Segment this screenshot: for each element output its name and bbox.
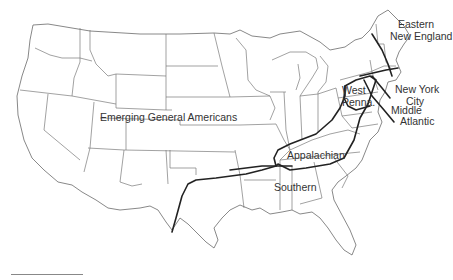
- label-southern: Southern: [274, 181, 317, 193]
- us-outline: [17, 10, 410, 255]
- label-west-penna-2: Penna.: [342, 96, 375, 108]
- scale-bar: [11, 274, 83, 275]
- label-eastern-new-england-1: Eastern: [398, 18, 434, 30]
- label-emerging-general-americans: Emerging General Americans: [100, 111, 237, 123]
- label-new-york-city-1: New York: [395, 83, 440, 95]
- us-dialect-map: Emerging General Americans Eastern New E…: [0, 0, 453, 280]
- label-west-penna-1: West: [342, 84, 366, 96]
- label-eastern-new-england-2: New England: [390, 30, 453, 42]
- label-appalachian: Appalachian: [287, 149, 345, 161]
- label-middle-atlantic-2: Atlantic: [400, 115, 434, 127]
